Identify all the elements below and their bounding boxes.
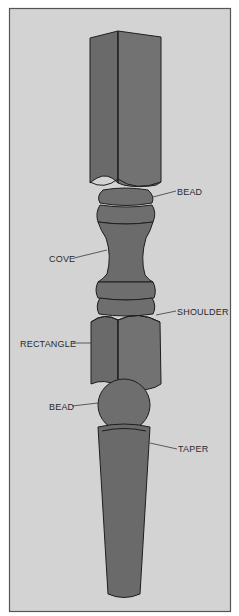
square-top-block (90, 31, 161, 187)
label-rectangle: RECTANGLE (20, 339, 76, 349)
turned-post-diagram: BEAD COVE SHOULDER RECTANGLE BEAD TAPER (0, 0, 239, 616)
label-cove: COVE (49, 254, 75, 264)
label-bead-bottom: BEAD (49, 402, 75, 412)
bead-lower-2 (97, 298, 155, 316)
bead-lower-1 (96, 282, 155, 300)
bead-second (97, 205, 155, 224)
bead-ball (98, 379, 150, 431)
label-shoulder: SHOULDER (177, 307, 229, 317)
label-taper: TAPER (178, 444, 209, 454)
bead-upper (99, 188, 153, 206)
label-bead-top: BEAD (177, 187, 203, 197)
